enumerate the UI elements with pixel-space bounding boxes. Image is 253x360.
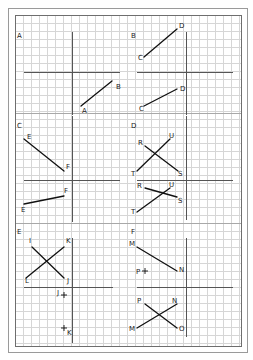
point-label: N	[179, 266, 184, 274]
point-label: E	[21, 206, 25, 214]
point-label: J	[56, 289, 59, 297]
point-label: K	[67, 329, 72, 337]
point-label: C	[139, 105, 144, 113]
point-label: D	[179, 22, 184, 30]
point-label: P	[136, 268, 140, 276]
point-label: O	[179, 325, 185, 333]
point-label: M	[129, 240, 135, 248]
point-label: T	[130, 208, 136, 216]
point-label: U	[169, 181, 174, 189]
point-label: F	[64, 187, 68, 195]
point-label: R	[138, 139, 143, 147]
panel-label: E	[17, 228, 21, 236]
panel-label: B	[131, 32, 136, 40]
point-label: L	[25, 277, 29, 285]
point-label: S	[178, 197, 183, 205]
point-label: N	[172, 297, 177, 305]
point-label: D	[180, 85, 185, 93]
point-label: U	[169, 132, 174, 140]
point-label: A	[82, 107, 87, 115]
point-label: M	[129, 325, 135, 333]
point-label: S	[178, 170, 183, 178]
point-label: B	[116, 83, 121, 91]
point-label: T	[130, 170, 136, 178]
panel-label: A	[17, 32, 22, 40]
panel-label: C	[17, 122, 22, 130]
point-label: I	[29, 237, 31, 245]
grid-worksheet: ABABDCDCCEFFEDRUTSRUSTEIKLJJKFMNPPNMO	[0, 0, 253, 360]
panel-label: D	[131, 122, 136, 130]
point-label: P	[137, 297, 141, 305]
point-label: C	[138, 54, 143, 62]
point-label: K	[66, 237, 71, 245]
point-label: J	[66, 277, 69, 285]
panel-label: F	[131, 228, 135, 236]
point-label: R	[137, 182, 142, 190]
point-label: F	[66, 163, 70, 171]
point-label: E	[27, 133, 31, 141]
